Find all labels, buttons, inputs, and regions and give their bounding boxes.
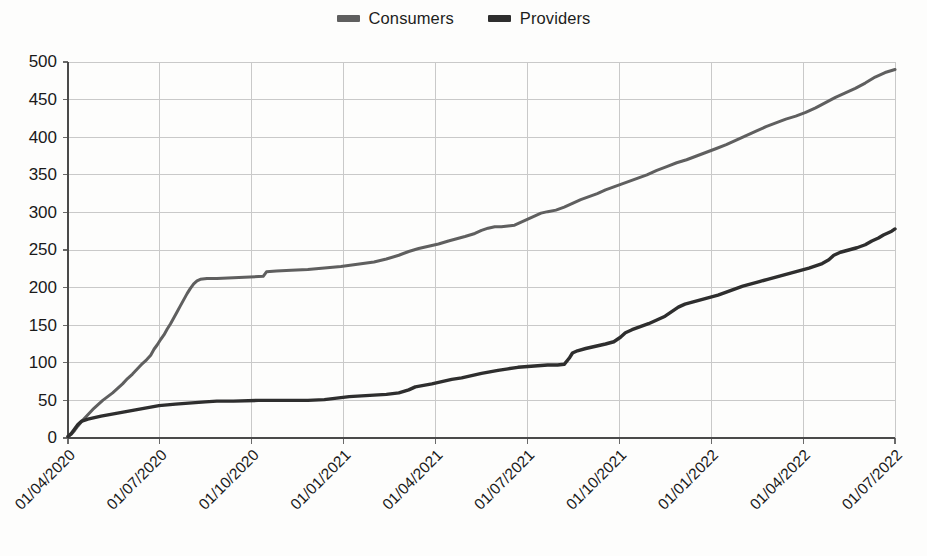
y-axis-tick-label: 50 <box>38 391 57 410</box>
y-axis-tick-label: 0 <box>48 428 57 447</box>
y-axis-tick-label: 100 <box>29 353 57 372</box>
y-axis-tick-label: 150 <box>29 316 57 335</box>
x-axis-tick-label: 01/04/2022 <box>746 446 813 513</box>
x-axis-tick-label: 01/07/2020 <box>103 446 170 513</box>
plot-area: 050100150200250300350400450500 01/04/202… <box>0 0 927 556</box>
series-line-consumers[interactable] <box>68 70 895 437</box>
grid-lines <box>63 62 895 444</box>
y-axis-tick-label: 250 <box>29 240 57 259</box>
data-series-group <box>68 70 895 437</box>
y-axis-tick-label: 350 <box>29 165 57 184</box>
x-axis-tick-labels: 01/04/202001/07/202001/10/202001/01/2021… <box>11 446 905 513</box>
x-axis-tick-label: 01/01/2021 <box>287 446 354 513</box>
y-axis-tick-label: 200 <box>29 278 57 297</box>
x-axis-tick-label: 01/10/2021 <box>563 446 630 513</box>
x-axis-tick-label: 01/10/2020 <box>195 446 262 513</box>
x-axis-tick-label: 01/01/2022 <box>654 446 721 513</box>
y-axis-tick-label: 500 <box>29 52 57 71</box>
x-axis-tick-label: 01/07/2022 <box>838 446 905 513</box>
y-axis-tick-label: 400 <box>29 128 57 147</box>
y-axis-tick-label: 300 <box>29 203 57 222</box>
x-axis-tick-label: 01/07/2021 <box>471 446 538 513</box>
x-axis-tick-label: 01/04/2021 <box>379 446 446 513</box>
chart-container: Consumers Providers 05010015020025030035… <box>0 0 927 556</box>
series-line-providers[interactable] <box>68 229 895 437</box>
y-axis-tick-labels: 050100150200250300350400450500 <box>29 52 57 447</box>
x-axis-tick-label: 01/04/2020 <box>11 446 78 513</box>
line-chart-svg: 050100150200250300350400450500 01/04/202… <box>0 0 927 556</box>
y-axis-tick-label: 450 <box>29 90 57 109</box>
